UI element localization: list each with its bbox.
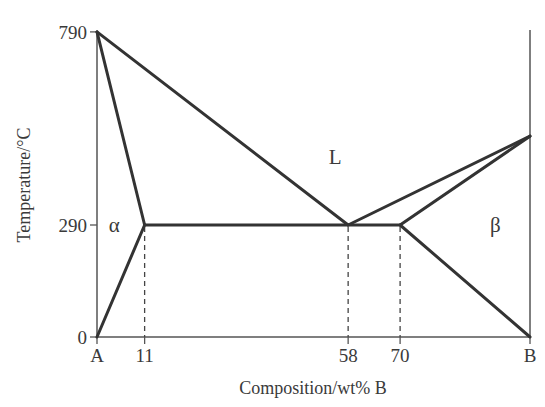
x-tick-label: 11 [135, 345, 153, 366]
phase-boundaries [97, 32, 530, 337]
y-tick-label: 290 [59, 215, 88, 236]
dashed-guides [145, 227, 400, 337]
solvus-alpha-line [97, 225, 145, 337]
x-tick-label: 58 [339, 345, 358, 366]
region-label: α [109, 213, 120, 237]
x-tick-label: A [90, 345, 104, 366]
solidus-alpha-line [97, 32, 145, 225]
y-axis-title: Temperature/°C [14, 128, 34, 243]
liquidus-B-line [348, 136, 530, 225]
x-axis-title: Composition/wt% B [239, 378, 387, 398]
tick-labels: 0290790A115870B [59, 22, 537, 366]
y-tick-label: 790 [59, 22, 88, 43]
solvus-beta-line [400, 225, 530, 337]
solidus-beta-line [400, 136, 530, 225]
y-tick-label: 0 [78, 327, 88, 348]
x-tick-label: B [524, 345, 537, 366]
liquidus-A-line [97, 32, 348, 225]
x-tick-label: 70 [391, 345, 410, 366]
region-label: L [329, 145, 342, 169]
phase-diagram: 0290790A115870B Lαβ Composition/wt% B Te… [0, 0, 545, 407]
region-label: β [490, 213, 501, 237]
